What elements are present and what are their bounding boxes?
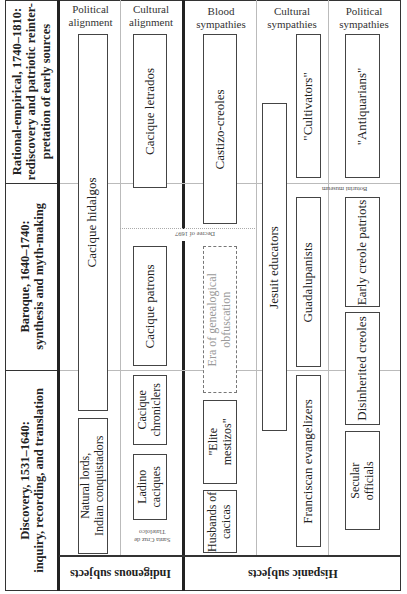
indigenous-subjects-text: Indigenous subjects bbox=[70, 566, 171, 581]
group-label-line: Husbands of bbox=[206, 491, 220, 551]
group-franciscan-evangelizers: Franciscan evangelizers bbox=[296, 375, 321, 547]
group-elite-mestizos: "Elite mestizos" bbox=[203, 400, 237, 484]
group-early-creole-patriots: Early creole patriots bbox=[345, 197, 380, 307]
col-divider-hispanic-2 bbox=[328, 0, 329, 555]
indigenous-subjects-label: Indigenous subjects bbox=[60, 557, 182, 590]
period-label-line: inquiry, recording, and translation bbox=[32, 388, 46, 573]
period-label-line: synthesis and myth-making bbox=[32, 203, 46, 350]
group-label-line: "Elite bbox=[206, 419, 220, 466]
annotation-boturini-text: Boturini museum bbox=[322, 186, 367, 193]
thick-divider-period bbox=[57, 0, 60, 591]
group-label-line: Secular bbox=[349, 461, 363, 500]
group-natural-lords: Natural lords, Indian conquistadors bbox=[78, 418, 108, 554]
group-label-line: Indian conquistadors bbox=[93, 436, 107, 536]
group-label-line: caciques bbox=[150, 466, 164, 507]
hispanic-subjects-label: Hispanic subjects bbox=[185, 557, 400, 590]
header-political-sympathies: Political sympathies bbox=[330, 5, 398, 30]
group-label: Castizo-creoles bbox=[213, 89, 228, 169]
group-label-line: officials bbox=[363, 461, 377, 500]
period-label-line: Discovery, 1531–1640: bbox=[18, 388, 32, 573]
period-discovery: Discovery, 1531–1640: inquiry, recording… bbox=[5, 370, 59, 591]
period-label-line: rediscovery and patriotic reinter- bbox=[25, 3, 39, 180]
thick-divider-subjects bbox=[182, 0, 185, 591]
group-guadalupanists: Guadalupanists bbox=[296, 197, 321, 367]
group-cacique-letrados: Cacique letrados bbox=[133, 34, 167, 188]
group-cacique-patrons: Cacique patrons bbox=[133, 246, 167, 366]
annotation-boturini-museum: Boturini museum bbox=[290, 184, 400, 194]
header-political-alignment: Political alignment bbox=[62, 3, 119, 28]
group-cacique-hidalgos: Cacique hidalgos bbox=[78, 34, 108, 411]
group-label-line: mestizos" bbox=[220, 419, 234, 466]
group-era-obfuscation: Era of genealogical obfuscation bbox=[203, 246, 237, 393]
group-label: Franciscan evangelizers bbox=[301, 399, 316, 524]
group-label-line: cacicas bbox=[220, 491, 234, 551]
group-label: Cacique hidalgos bbox=[86, 178, 101, 268]
annotation-santa-cruz: Santa Cruz de Tlatelolco bbox=[125, 522, 180, 550]
col-divider-hispanic-1 bbox=[256, 0, 257, 555]
group-antiquarians: "Antiquarians" bbox=[345, 34, 380, 178]
header-cultural-sympathies: Cultural sympathies bbox=[258, 5, 326, 30]
group-label: Cacique letrados bbox=[143, 68, 158, 155]
annotation-line: Santa Cruz de bbox=[134, 536, 170, 544]
group-label: Guadalupanists bbox=[301, 242, 316, 322]
period-label-line: Baroque, 1640–1740: bbox=[18, 203, 32, 350]
annotation-line: Tlatelolco bbox=[134, 528, 170, 536]
annotation-decree-1697: Decree of 1697 bbox=[140, 228, 250, 240]
group-label: Jesuit educators bbox=[267, 226, 282, 309]
group-secular-officials: Secular officials bbox=[345, 431, 380, 530]
group-cacique-chroniclers: Cacique chroniclers bbox=[133, 375, 167, 445]
group-castizo-creoles: Castizo-creoles bbox=[203, 34, 237, 224]
group-label: Early creole patriots bbox=[355, 199, 370, 304]
group-label: Cacique patrons bbox=[143, 264, 158, 348]
period-rational-empirical: Rational-empirical, 1740–1810: rediscove… bbox=[5, 0, 59, 183]
group-label-line: Natural lords, bbox=[79, 436, 93, 536]
col-divider-indigenous bbox=[120, 0, 121, 555]
group-label: "Cultivators" bbox=[301, 72, 316, 140]
group-cultivators: "Cultivators" bbox=[296, 34, 321, 178]
group-label: "Antiquarians" bbox=[355, 67, 370, 145]
group-label: Disinherited creoles bbox=[355, 316, 370, 420]
annotation-decree-text: Decree of 1697 bbox=[175, 231, 215, 238]
period-label-line: Rational-empirical, 1740–1810: bbox=[10, 3, 24, 180]
header-cultural-alignment: Cultural alignment bbox=[122, 3, 180, 28]
group-label-line: obfuscation bbox=[220, 273, 234, 366]
group-disinherited-creoles: Disinherited creoles bbox=[345, 312, 380, 425]
hispanic-subjects-text: Hispanic subjects bbox=[248, 566, 338, 581]
header-blood-sympathies: Blood sympathies bbox=[190, 5, 252, 30]
group-jesuit-educators: Jesuit educators bbox=[262, 103, 287, 431]
group-ladino-caciques: Ladino caciques bbox=[133, 454, 167, 520]
group-husbands-cacicas: Husbands of cacicas bbox=[203, 490, 237, 553]
period-label-line: pretation of early sources bbox=[39, 3, 53, 180]
period-baroque: Baroque, 1640–1740: synthesis and myth-m… bbox=[5, 183, 59, 370]
group-label-line: chroniclers bbox=[150, 383, 164, 436]
